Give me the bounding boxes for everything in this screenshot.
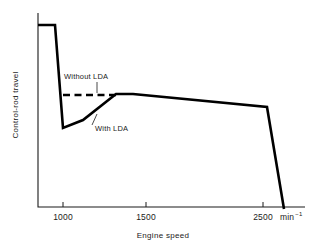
xtick-label-1500: 1500 xyxy=(136,212,156,222)
line-chart: Without LDA With LDA 1000 1500 2500 min−… xyxy=(0,0,313,246)
annotation-with-lda: With LDA xyxy=(95,124,128,133)
annotation-without-lda: Without LDA xyxy=(64,72,108,81)
xtick-label-1000: 1000 xyxy=(53,212,73,222)
chart-axes xyxy=(38,13,305,207)
chart-figure: Without LDA With LDA 1000 1500 2500 min−… xyxy=(0,0,313,246)
xaxis-unit: min−1 xyxy=(280,211,303,222)
yaxis-title: Control-rod travel xyxy=(11,71,20,138)
series-with-lda xyxy=(38,25,284,209)
xaxis-unit-exponent: −1 xyxy=(295,211,303,217)
xtick-label-2500: 2500 xyxy=(253,212,273,222)
xaxis-unit-base: min xyxy=(280,212,294,222)
xaxis-title: Engine speed xyxy=(137,231,190,240)
